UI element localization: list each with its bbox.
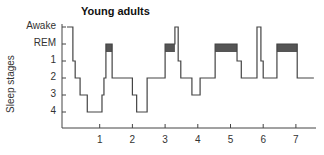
x-tick-label: 6 bbox=[257, 134, 269, 145]
y-tick-label: 4 bbox=[6, 105, 56, 116]
x-tick-label: 2 bbox=[126, 134, 138, 145]
rem-block bbox=[277, 44, 297, 52]
sleep-stage-trace bbox=[67, 27, 314, 112]
rem-block bbox=[215, 44, 237, 52]
chart-title: Young adults bbox=[81, 5, 150, 17]
y-tick-label: 2 bbox=[6, 71, 56, 82]
rem-block bbox=[106, 44, 112, 52]
x-tick-label: 3 bbox=[159, 134, 171, 145]
y-tick-label: 1 bbox=[6, 54, 56, 65]
x-tick-label: 1 bbox=[94, 134, 106, 145]
y-tick-label: REM bbox=[6, 37, 56, 48]
rem-block bbox=[165, 44, 175, 52]
x-tick-label: 5 bbox=[225, 134, 237, 145]
y-tick-label: 3 bbox=[6, 88, 56, 99]
x-tick-label: 4 bbox=[192, 134, 204, 145]
y-tick-label: Awake bbox=[6, 20, 56, 31]
x-tick-label: 7 bbox=[290, 134, 302, 145]
rem-blocks bbox=[106, 44, 297, 52]
